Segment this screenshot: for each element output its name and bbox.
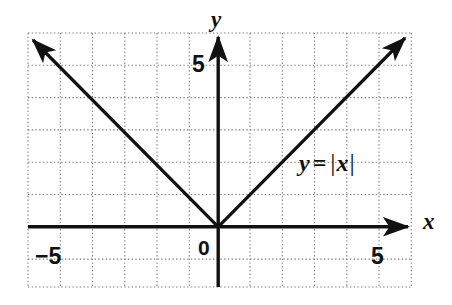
- origin-label: 0: [198, 237, 210, 258]
- function-equation-label: y=|x|: [299, 150, 356, 176]
- coordinate-plane-svg: [0, 0, 452, 305]
- y-axis-tick-label-positive-5: 5: [192, 53, 205, 76]
- x-axis-tick-label-negative-5: −5: [35, 245, 61, 268]
- equation-absolute-bar-close: |: [349, 148, 356, 177]
- equation-left-hand-side: y: [299, 150, 310, 176]
- equation-argument: x: [337, 150, 349, 176]
- graph-figure: −5 5 5 0 x y y=|x|: [0, 0, 452, 305]
- x-axis-name-label: x: [423, 210, 435, 233]
- function-branch-right: [218, 38, 405, 227]
- x-axis-tick-label-positive-5: 5: [371, 245, 384, 268]
- equation-absolute-bar-open: |: [329, 148, 336, 177]
- y-axis-name-label: y: [211, 8, 221, 31]
- equation-equals-sign: =: [310, 150, 330, 176]
